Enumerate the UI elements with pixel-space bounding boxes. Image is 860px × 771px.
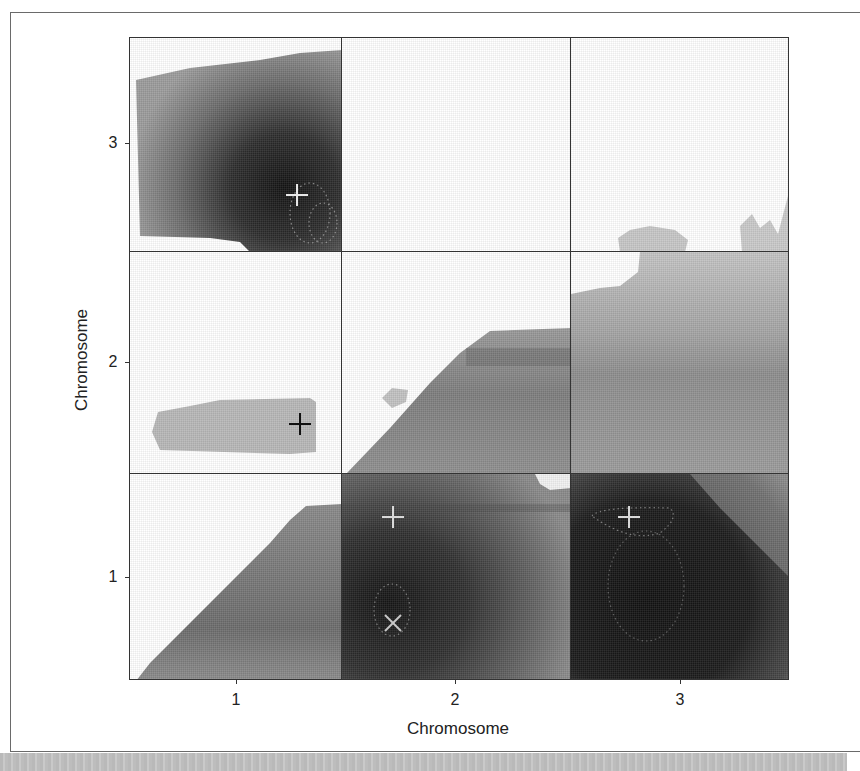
x-tick-label: 1 <box>232 691 241 709</box>
plus-marker-black-icon <box>289 413 311 435</box>
x-tick-label: 2 <box>451 691 460 709</box>
grid-vline-2 <box>570 38 571 679</box>
y-axis-title: Chromosome <box>72 309 92 411</box>
plus-marker-white-icon <box>382 506 404 528</box>
y-tick-label: 2 <box>109 353 118 371</box>
cross-marker-white-icon <box>383 613 403 633</box>
y-tick-label: 3 <box>109 134 118 152</box>
grid-vline-1 <box>341 38 342 679</box>
x-axis-title: Chromosome <box>407 719 509 739</box>
y-tick-mark <box>125 362 129 363</box>
x-tick-mark <box>455 680 456 684</box>
x-tick-mark <box>236 680 237 684</box>
plus-marker-white-icon <box>286 184 308 206</box>
y-tick-mark <box>125 143 129 144</box>
x-tick-label: 3 <box>676 691 685 709</box>
y-tick-label: 1 <box>109 568 118 586</box>
plus-marker-white-icon <box>618 506 640 528</box>
bottom-scan-band <box>0 753 847 771</box>
grid-hline-1 <box>130 251 788 252</box>
heatmap-panels <box>130 38 789 680</box>
heatmap-plot-area <box>129 37 789 680</box>
grid-hline-2 <box>130 473 788 474</box>
x-tick-mark <box>680 680 681 684</box>
y-tick-mark <box>125 577 129 578</box>
